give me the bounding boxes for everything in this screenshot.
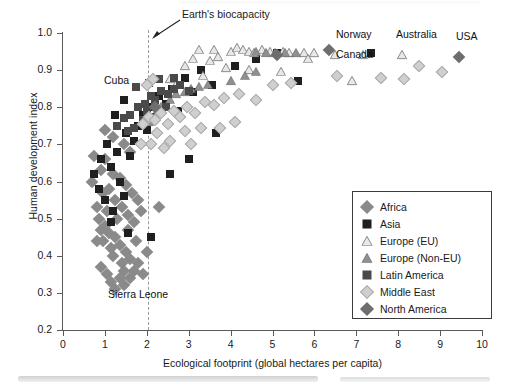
data-point-asia: [103, 140, 111, 148]
legend-marker-icon: [361, 286, 373, 298]
data-point-asia: [124, 229, 132, 237]
legend-marker-icon: [361, 201, 373, 213]
data-point-asia: [126, 152, 134, 160]
legend-label: Africa: [380, 201, 407, 213]
data-point-asia: [107, 163, 115, 171]
data-point-asia: [111, 111, 119, 119]
scatter-chart: 1.00.90.80.70.60.50.40.30.2 012345678910…: [0, 0, 506, 387]
data-point-latin-america: [170, 74, 178, 82]
legend-item-europe-non-eu[interactable]: Europe (Non-EU): [361, 249, 491, 266]
data-point-latin-america: [124, 127, 132, 135]
legend-item-latin-america[interactable]: Latin America: [361, 266, 491, 283]
data-point-middle-east: [375, 71, 388, 84]
data-point-europe-eu: [194, 44, 205, 54]
data-point-middle-east: [436, 66, 449, 79]
data-point-europe-eu: [397, 50, 408, 60]
data-point-europe-eu: [221, 63, 232, 73]
legend: AfricaAsiaEurope (EU)Europe (Non-EU)Lati…: [352, 191, 492, 319]
data-point-europe-non-eu: [202, 80, 213, 90]
data-point-north-america: [453, 51, 466, 64]
data-point-europe-non-eu: [225, 76, 236, 86]
data-point-europe-eu: [347, 76, 358, 86]
data-point-latin-america: [113, 122, 121, 130]
data-point-asia: [147, 233, 155, 241]
data-point-europe-eu: [276, 67, 287, 77]
legend-label: North America: [380, 303, 447, 315]
data-point-asia: [231, 62, 239, 70]
data-point-latin-america: [176, 81, 184, 89]
legend-item-europe-eu[interactable]: Europe (EU): [361, 232, 491, 249]
data-point-asia: [101, 196, 109, 204]
data-point-europe-non-eu: [240, 70, 251, 80]
data-point-europe-non-eu: [250, 46, 261, 56]
data-point-europe-eu: [188, 54, 199, 64]
legend-item-north-america[interactable]: North America: [361, 300, 491, 317]
data-point-latin-america: [132, 83, 140, 91]
data-point-middle-east: [195, 121, 208, 134]
data-point-africa: [140, 246, 153, 259]
legend-label: Latin America: [380, 269, 444, 281]
data-point-asia: [107, 218, 115, 226]
data-point-africa: [134, 205, 147, 218]
legend-marker-icon: [361, 303, 373, 315]
data-point-middle-east: [249, 93, 262, 106]
data-point-middle-east: [331, 69, 344, 82]
data-point-middle-east: [228, 116, 241, 129]
data-point-asia: [120, 192, 128, 200]
data-point-asia: [166, 170, 174, 178]
data-point-asia: [97, 155, 105, 163]
legend-label: Europe (EU): [380, 235, 438, 247]
data-point-asia: [116, 178, 124, 186]
data-point-asia: [109, 207, 117, 215]
data-point-middle-east: [413, 60, 426, 73]
data-point-middle-east: [178, 125, 191, 138]
data-point-europe-non-eu: [261, 48, 272, 58]
data-point-middle-east: [218, 92, 231, 105]
scan-artifact-band-right: [340, 377, 490, 382]
annotation-cuba: Cuba: [104, 74, 129, 86]
annotation-australia: Australia: [396, 28, 437, 40]
data-point-asia: [113, 148, 121, 156]
legend-item-middle-east[interactable]: Middle East: [361, 283, 491, 300]
data-point-europe-eu: [198, 70, 209, 80]
data-point-asia: [90, 170, 98, 178]
legend-item-africa[interactable]: Africa: [361, 198, 491, 215]
data-point-europe-non-eu: [290, 48, 301, 58]
data-point-europe-non-eu: [250, 67, 261, 77]
data-point-asia: [185, 155, 193, 163]
legend-marker-icon: [361, 235, 373, 247]
data-point-middle-east: [151, 127, 164, 140]
scan-artifact-band-left: [18, 376, 318, 382]
legend-label: Europe (Non-EU): [380, 252, 461, 264]
legend-marker-icon: [361, 252, 373, 264]
data-point-europe-eu: [303, 54, 314, 64]
legend-item-asia[interactable]: Asia: [361, 215, 491, 232]
data-point-middle-east: [161, 118, 174, 131]
data-point-africa: [153, 201, 166, 214]
data-point-middle-east: [398, 73, 411, 86]
annotation-norway: Norway: [336, 28, 372, 40]
legend-label: Asia: [380, 218, 400, 230]
legend-label: Middle East: [380, 286, 435, 298]
annotation-canada: Canada: [336, 48, 373, 60]
data-point-asia: [95, 185, 103, 193]
data-point-latin-america: [185, 87, 193, 95]
legend-marker-icon: [361, 269, 373, 281]
data-point-europe-eu: [204, 56, 215, 66]
data-point-middle-east: [266, 79, 279, 92]
data-point-middle-east: [233, 88, 246, 101]
annotation-usa: USA: [456, 30, 478, 42]
data-point-latin-america: [126, 111, 134, 119]
annotation-sierra-leone: Sierra Leone: [108, 288, 168, 300]
legend-marker-icon: [361, 218, 373, 230]
data-point-middle-east: [184, 138, 197, 151]
data-point-asia: [120, 96, 128, 104]
